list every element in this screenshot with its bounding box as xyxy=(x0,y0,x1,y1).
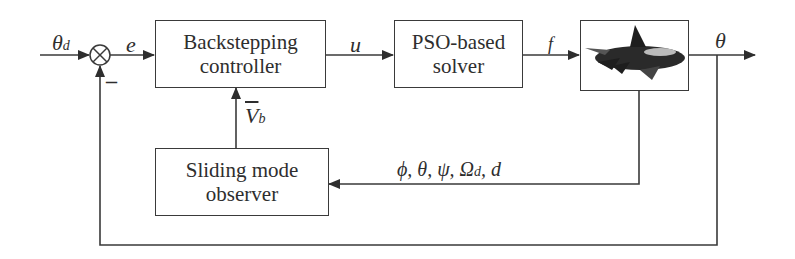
observer-label-line1: Sliding mode xyxy=(186,158,299,182)
sliding-mode-observer-block: Sliding mode observer xyxy=(155,148,329,216)
solver-label-line2: solver xyxy=(412,54,505,78)
pso-solver-block: PSO-based solver xyxy=(394,20,523,88)
disturbance-estimate-label: Vb xyxy=(245,103,265,129)
feedback-sign: – xyxy=(106,68,117,94)
backstepping-controller-block: Backstepping controller xyxy=(155,20,326,88)
measured-states-label: ϕ, θ, ψ, Ωd, d xyxy=(397,158,501,181)
control-signal-label: u xyxy=(350,32,361,58)
solver-label-line1: PSO-based xyxy=(412,30,505,54)
controller-label-line2: controller xyxy=(183,54,297,78)
observer-label-line2: observer xyxy=(186,182,299,206)
input-signal-label: θd xyxy=(52,30,70,56)
plant-block xyxy=(580,20,689,91)
error-signal-label: e xyxy=(126,32,136,58)
summing-junction xyxy=(90,45,110,65)
controller-label-line1: Backstepping xyxy=(183,30,297,54)
output-signal-label: θ xyxy=(715,28,726,54)
force-signal-label: f xyxy=(548,34,553,55)
